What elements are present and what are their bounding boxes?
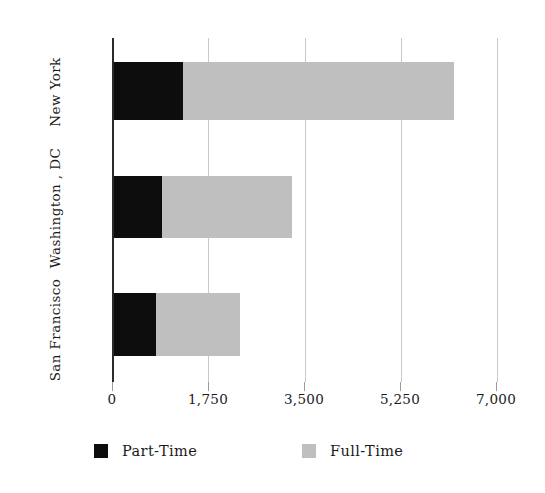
x-tick-mark-3500 <box>304 382 305 391</box>
bar-segment-part-time-new-york[interactable] <box>112 62 183 120</box>
bar-segment-part-time-washington-dc[interactable] <box>112 176 162 238</box>
x-tick-mark-0 <box>112 382 113 391</box>
x-tick-label-5250: 5,250 <box>380 391 420 407</box>
x-tick-label-7000: 7,000 <box>476 391 516 407</box>
legend-entry-part-time[interactable]: Part-Time <box>94 440 197 462</box>
legend-entry-full-time[interactable]: Full-Time <box>302 440 403 462</box>
bar-segment-full-time-new-york[interactable] <box>183 62 454 120</box>
bar-segment-part-time-san-francisco[interactable] <box>112 293 156 356</box>
bar-row-new-york[interactable] <box>112 62 454 120</box>
legend-swatch-part-time-icon <box>94 444 108 458</box>
plot-area <box>112 38 497 382</box>
legend-label-full-time: Full-Time <box>330 443 403 459</box>
legend-label-part-time: Part-Time <box>122 443 197 459</box>
x-tick-label-3500: 3,500 <box>284 391 324 407</box>
bar-row-san-francisco[interactable] <box>112 293 240 356</box>
y-tick-label-san-francisco: San Francisco <box>47 264 63 396</box>
x-tick-label-0: 0 <box>108 391 117 407</box>
gridline-7000 <box>497 38 498 382</box>
y-tick-label-new-york: New York <box>47 32 63 152</box>
legend: Part-Time Full-Time <box>0 440 545 470</box>
x-tick-mark-7000 <box>496 382 497 391</box>
x-tick-mark-5250 <box>400 382 401 391</box>
bar-segment-full-time-san-francisco[interactable] <box>156 293 240 356</box>
bar-segment-full-time-washington-dc[interactable] <box>162 176 292 238</box>
legend-swatch-full-time-icon <box>302 444 316 458</box>
x-tick-mark-1750 <box>208 382 209 391</box>
bar-row-washington-dc[interactable] <box>112 176 292 238</box>
y-tick-label-washington-dc: Washington , DC <box>47 144 63 272</box>
x-tick-label-1750: 1,750 <box>188 391 228 407</box>
stacked-bar-chart: 0 1,750 3,500 5,250 7,000 New York Washi… <box>0 0 545 493</box>
y-axis-line <box>112 38 114 382</box>
